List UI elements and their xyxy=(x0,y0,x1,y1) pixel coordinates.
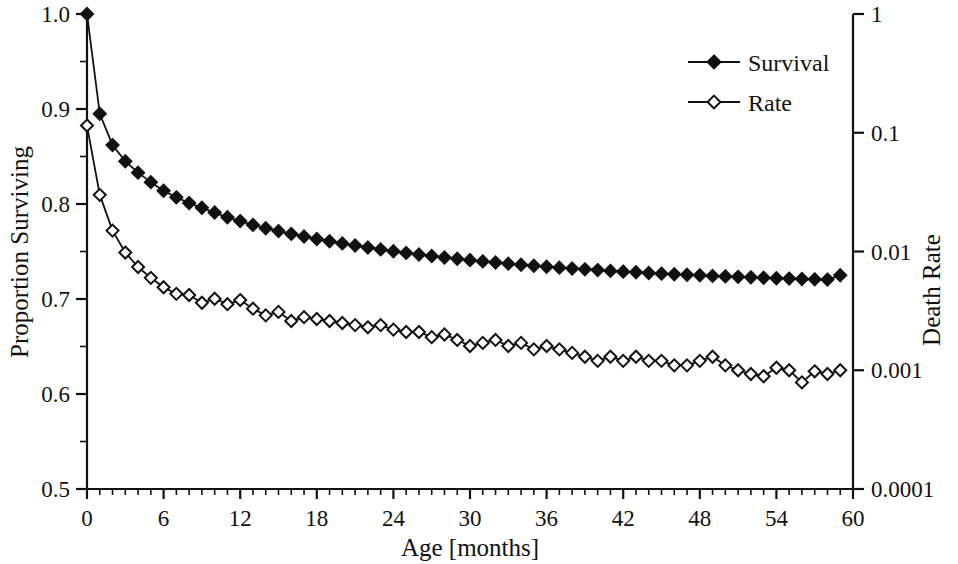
data-point-survival xyxy=(566,262,579,275)
data-point-survival xyxy=(719,270,732,283)
data-point-rate xyxy=(221,298,233,310)
data-point-survival xyxy=(476,255,489,268)
y2-tick-label: 0.1 xyxy=(871,121,900,146)
data-point-survival xyxy=(783,272,796,285)
data-point-survival xyxy=(795,272,808,285)
x-tick-label: 42 xyxy=(612,506,635,531)
data-point-rate xyxy=(732,364,744,376)
data-point-survival xyxy=(502,257,515,270)
y-axis-left-tick-labels: 0.50.60.70.80.91.0 xyxy=(41,2,70,502)
data-point-survival xyxy=(387,245,400,258)
y-axis-left-title: Proportion Surviving xyxy=(6,146,33,358)
data-point-rate xyxy=(107,225,119,237)
data-point-rate xyxy=(324,315,336,327)
data-series-layer xyxy=(80,7,846,388)
data-point-survival xyxy=(323,235,336,248)
data-point-rate xyxy=(694,355,706,367)
data-point-rate xyxy=(566,347,578,359)
data-point-survival xyxy=(514,258,527,271)
data-point-rate xyxy=(196,297,208,309)
data-point-survival xyxy=(668,268,681,281)
data-point-survival xyxy=(170,191,183,204)
y2-tick-label: 0.001 xyxy=(871,358,923,383)
data-point-survival xyxy=(285,227,298,240)
data-point-survival xyxy=(642,266,655,279)
data-point-rate xyxy=(821,368,833,380)
data-point-survival xyxy=(591,264,604,277)
x-tick-label: 18 xyxy=(305,506,328,531)
y-tick-label: 1.0 xyxy=(41,2,70,27)
data-point-rate xyxy=(273,306,285,318)
data-point-survival xyxy=(361,241,374,254)
data-point-survival xyxy=(80,7,93,20)
data-point-survival xyxy=(821,273,834,286)
data-point-rate xyxy=(579,351,591,363)
x-tick-label: 54 xyxy=(765,506,789,531)
legend-item-survival[interactable]: Survival xyxy=(688,50,830,76)
data-point-survival xyxy=(195,201,208,214)
chart-legend: SurvivalRate xyxy=(688,50,830,116)
legend-label: Survival xyxy=(748,50,830,76)
data-point-survival xyxy=(693,269,706,282)
data-point-rate xyxy=(592,355,604,367)
data-point-rate xyxy=(260,309,272,321)
series-rate xyxy=(81,120,846,389)
data-point-rate xyxy=(604,351,616,363)
data-point-survival xyxy=(706,269,719,282)
y-axis-right-ticks xyxy=(853,14,864,489)
data-point-survival xyxy=(451,252,464,265)
data-point-survival xyxy=(221,211,234,224)
data-point-survival xyxy=(707,55,721,69)
y-axis-right-title: Death Rate xyxy=(918,234,945,346)
legend-item-rate[interactable]: Rate xyxy=(688,90,792,116)
data-point-rate xyxy=(668,359,680,371)
data-point-survival xyxy=(540,260,553,273)
data-point-survival xyxy=(272,224,285,237)
data-point-rate xyxy=(336,317,348,329)
data-point-rate xyxy=(477,337,489,349)
y-tick-label: 0.7 xyxy=(41,287,70,312)
data-point-survival xyxy=(489,256,502,269)
data-point-rate xyxy=(183,289,195,301)
x-tick-label: 48 xyxy=(688,506,711,531)
data-point-survival xyxy=(438,251,451,264)
data-point-survival xyxy=(297,230,310,243)
data-point-survival xyxy=(617,265,630,278)
data-point-survival xyxy=(157,184,170,197)
data-point-rate xyxy=(758,370,770,382)
data-point-rate xyxy=(719,359,731,371)
data-point-survival xyxy=(604,264,617,277)
data-point-rate xyxy=(247,303,259,315)
data-point-rate xyxy=(681,359,693,371)
data-point-rate xyxy=(834,364,846,376)
y-tick-label: 0.6 xyxy=(41,382,70,407)
data-point-survival xyxy=(834,269,847,282)
series-line xyxy=(87,14,840,280)
data-point-rate xyxy=(234,294,246,306)
data-point-survival xyxy=(732,270,745,283)
data-point-rate xyxy=(362,321,374,333)
y-tick-label: 0.8 xyxy=(41,192,70,217)
data-point-rate xyxy=(528,343,540,355)
y2-tick-label: 0.01 xyxy=(871,240,911,265)
data-point-survival xyxy=(208,206,221,219)
data-point-rate xyxy=(617,355,629,367)
x-tick-label: 0 xyxy=(81,506,93,531)
data-point-survival xyxy=(808,273,821,286)
data-point-survival xyxy=(183,196,196,209)
data-point-survival xyxy=(553,261,566,274)
data-point-rate xyxy=(464,340,476,352)
data-point-survival xyxy=(246,218,259,231)
axes-frame xyxy=(87,14,853,489)
y-axis-left-ticks xyxy=(76,14,87,489)
data-point-rate xyxy=(541,340,553,352)
data-point-rate xyxy=(745,368,757,380)
data-point-rate xyxy=(426,331,438,343)
data-point-rate xyxy=(656,355,668,367)
x-axis-title: Age [months] xyxy=(401,534,539,561)
data-point-rate xyxy=(643,355,655,367)
data-point-rate xyxy=(438,329,450,341)
data-point-survival xyxy=(144,176,157,189)
data-point-rate xyxy=(451,334,463,346)
data-point-rate xyxy=(502,340,514,352)
